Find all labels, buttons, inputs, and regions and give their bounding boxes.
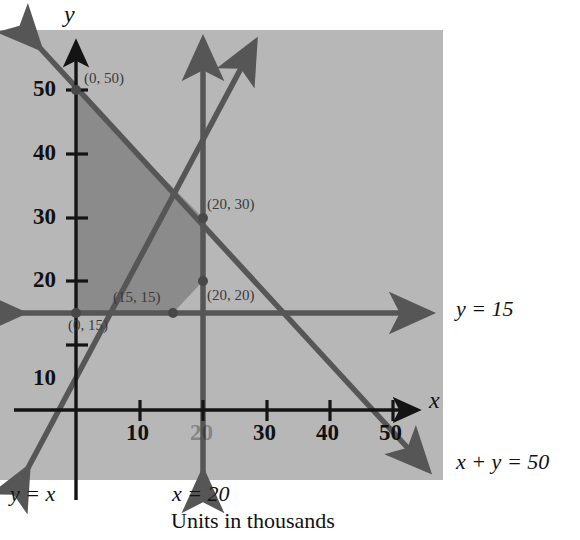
point-label-0-15: (0, 15) bbox=[68, 318, 108, 333]
point-label-20-20: (20, 20) bbox=[207, 288, 255, 303]
equation-label-x-equals-20: x = 20 bbox=[172, 483, 230, 505]
y-tick-label-10: 10 bbox=[33, 366, 56, 389]
x-tick-label-20: 20 bbox=[190, 421, 213, 444]
equation-label-y-equals-15: y = 15 bbox=[456, 298, 514, 320]
vertex-0-50 bbox=[71, 85, 81, 95]
x-tick-label-10: 10 bbox=[126, 421, 149, 444]
vertex-20-30 bbox=[198, 213, 208, 223]
figure-caption: Units in thousands bbox=[171, 510, 335, 532]
point-label-0-50: (0, 50) bbox=[84, 71, 124, 86]
y-tick-label-40: 40 bbox=[33, 141, 56, 164]
x-tick-label-40: 40 bbox=[316, 421, 339, 444]
point-label-20-30: (20, 30) bbox=[207, 197, 255, 212]
y-tick-label-30: 30 bbox=[33, 205, 56, 228]
y-tick-label-20: 20 bbox=[33, 268, 56, 291]
equation-label-y-equals-x: y = x bbox=[10, 483, 55, 505]
x-tick-label-50: 50 bbox=[379, 421, 402, 444]
vertex-20-20 bbox=[198, 276, 208, 286]
x-tick-label-30: 30 bbox=[253, 421, 276, 444]
point-label-15-15: (15, 15) bbox=[113, 290, 161, 305]
equation-label-x-plus-y-equals-50: x + y = 50 bbox=[456, 451, 549, 473]
vertex-15-15 bbox=[168, 308, 178, 318]
x-axis-label: x bbox=[429, 388, 440, 412]
y-axis-label: y bbox=[64, 2, 75, 26]
y-tick-label-50: 50 bbox=[33, 77, 56, 100]
